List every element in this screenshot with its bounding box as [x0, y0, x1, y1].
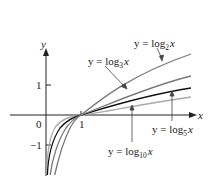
y-tick-label-1: 1 [36, 79, 42, 91]
x-axis-arrow-icon [189, 112, 197, 118]
x-axis-label: x [197, 109, 203, 121]
log-functions-chart: y x 0 1 1 −1 y = log2x y = log3x y = log… [0, 0, 212, 186]
origin-label: 0 [36, 118, 42, 130]
log2-arrowhead-icon [160, 55, 164, 61]
x-tick-label-1: 1 [79, 118, 85, 130]
label-log2: y = log2x [134, 37, 175, 52]
curve-log10 [47, 97, 192, 175]
label-log3: y = log3x [88, 55, 129, 70]
label-log10: y = log10x [108, 145, 153, 160]
y-axis-label: y [40, 38, 46, 50]
y-tick-label-minus-1: −1 [30, 139, 42, 151]
label-log5: y = log5x [152, 123, 193, 138]
